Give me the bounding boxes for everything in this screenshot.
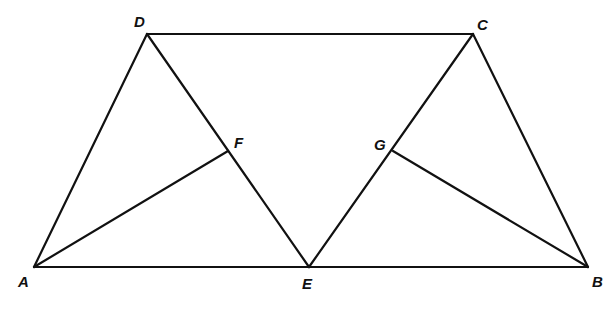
label-point-e: E	[302, 275, 313, 292]
label-point-c: C	[477, 16, 489, 33]
label-point-g: G	[374, 136, 386, 153]
geometry-diagram: A B C D E F G	[0, 0, 616, 316]
segment-ce	[309, 34, 473, 267]
label-point-f: F	[234, 134, 244, 151]
label-point-a: A	[17, 273, 29, 290]
label-point-b: B	[592, 273, 603, 290]
label-point-d: D	[134, 13, 145, 30]
